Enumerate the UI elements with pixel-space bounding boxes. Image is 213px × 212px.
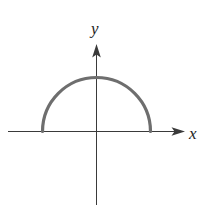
coordinate-plot: [0, 0, 213, 212]
figure-canvas: y x: [0, 0, 213, 212]
y-axis-label: y: [91, 20, 99, 37]
x-axis-label: x: [189, 125, 197, 142]
